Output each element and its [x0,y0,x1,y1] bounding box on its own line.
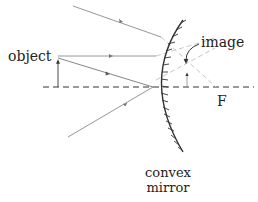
ray-reflected-center [68,87,153,137]
mirror-label-line2: mirror [145,181,191,194]
ray-incident-center [58,58,153,87]
object-label: object [8,49,51,63]
ray-extension-horizontal-2 [156,48,215,80]
ray-arrow-marker [119,19,123,23]
ray-incident-top [73,6,161,37]
mirror-hatching [161,20,186,151]
image-label: image [201,35,244,49]
ray-arrow-marker [123,103,127,107]
mirror-label-line1: convex [145,166,191,179]
focal-point-label: F [217,94,227,108]
ray-arrow-marker [109,54,113,58]
